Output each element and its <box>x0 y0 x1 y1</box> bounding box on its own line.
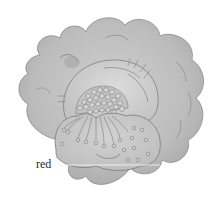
figure: red <box>0 0 224 209</box>
front-petal <box>55 113 160 170</box>
label-red: red <box>36 158 51 170</box>
flower-illustration <box>0 0 224 209</box>
